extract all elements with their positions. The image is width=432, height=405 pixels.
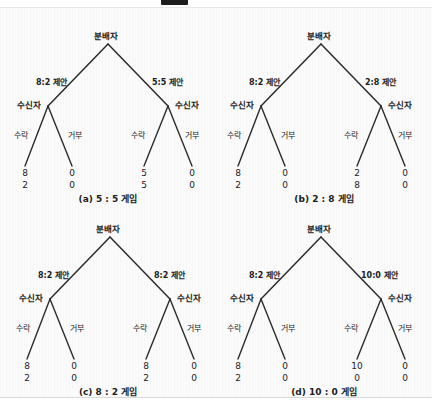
action-label-c-0: 수락 <box>16 325 30 333</box>
caption-c: (c) 8 : 2 게임 <box>0 385 216 398</box>
left-node-label-c: 수신자 <box>19 294 43 303</box>
right-node-label-d: 수신자 <box>388 294 412 303</box>
caption-d: (d) 10 : 0 게임 <box>216 385 432 398</box>
edge-right-accept-b <box>357 106 381 166</box>
payoff-bottom-b-1: 0 <box>274 179 296 191</box>
payoff-c-0: 8 2 <box>16 360 38 384</box>
left-offer-label-a: 8:2 제안 <box>36 79 67 87</box>
edge-root-left-b <box>261 44 321 106</box>
payoff-bottom-d-0: 2 <box>227 372 249 384</box>
edge-root-right-a <box>108 44 168 106</box>
payoff-top-c-1: 0 <box>63 360 85 372</box>
payoff-bottom-b-3: 0 <box>394 179 416 191</box>
left-node-label-b: 수신자 <box>230 101 254 110</box>
payoff-top-b-1: 0 <box>274 167 296 179</box>
payoff-b-0: 8 2 <box>227 167 249 191</box>
action-label-d-2: 수락 <box>344 325 358 333</box>
game-tree-panel-c: 분배자 8:2 제안 8:2 제안 수신자 수신자 수락 거부 수락 거부 8 … <box>0 201 216 396</box>
game-tree-panel-d: 분배자 8:2 제안 10:0 제안 수신자 수신자 수락 거부 수락 거부 8… <box>216 201 432 396</box>
payoff-top-b-3: 0 <box>394 167 416 179</box>
payoff-bottom-a-0: 2 <box>14 179 36 191</box>
payoff-d-3: 0 0 <box>394 360 416 384</box>
payoff-bottom-d-3: 0 <box>394 372 416 384</box>
payoff-bottom-c-0: 2 <box>16 372 38 384</box>
payoff-bottom-a-3: 0 <box>181 179 203 191</box>
action-label-d-3: 거부 <box>398 325 412 333</box>
root-node-label-b: 분배자 <box>307 32 331 41</box>
action-label-a-2: 수락 <box>131 132 145 140</box>
action-label-b-3: 거부 <box>398 132 412 140</box>
payoff-b-1: 0 0 <box>274 167 296 191</box>
payoff-bottom-d-2: 0 <box>344 372 370 384</box>
payoff-top-d-1: 0 <box>274 360 296 372</box>
right-offer-label-b: 2:8 제안 <box>365 79 396 87</box>
action-label-c-1: 거부 <box>70 325 84 333</box>
payoff-d-0: 8 2 <box>227 360 249 384</box>
payoff-top-c-3: 0 <box>183 360 205 372</box>
left-node-label-d: 수신자 <box>230 294 254 303</box>
payoff-a-0: 8 2 <box>14 167 36 191</box>
action-label-a-1: 거부 <box>68 132 82 140</box>
action-label-a-0: 수락 <box>14 132 28 140</box>
edge-root-right-c <box>110 237 170 299</box>
root-node-label-d: 분배자 <box>307 225 331 234</box>
action-label-d-0: 수락 <box>227 325 241 333</box>
edge-left-accept-a <box>25 106 48 166</box>
payoff-b-2: 2 8 <box>346 167 368 191</box>
root-node-label-a: 분배자 <box>94 32 118 41</box>
payoff-bottom-c-2: 2 <box>135 372 157 384</box>
payoff-bottom-a-1: 0 <box>61 179 83 191</box>
root-node-label-c: 분배자 <box>96 225 120 234</box>
payoff-bottom-b-0: 2 <box>227 179 249 191</box>
payoff-bottom-c-1: 0 <box>63 372 85 384</box>
payoff-a-3: 0 0 <box>181 167 203 191</box>
right-node-label-c: 수신자 <box>177 294 201 303</box>
header-badge <box>161 0 188 5</box>
payoff-c-2: 8 2 <box>135 360 157 384</box>
action-label-d-1: 거부 <box>281 325 295 333</box>
right-node-label-a: 수신자 <box>175 101 199 110</box>
edge-right-accept-a <box>144 106 168 166</box>
payoff-d-2: 10 0 <box>344 360 370 384</box>
edge-right-accept-c <box>146 299 170 359</box>
game-tree-panel-b: 분배자 8:2 제안 2:8 제안 수신자 수신자 수락 거부 수락 거부 8 … <box>216 8 432 203</box>
payoff-b-3: 0 0 <box>394 167 416 191</box>
payoff-top-a-0: 8 <box>14 167 36 179</box>
payoff-top-b-2: 2 <box>346 167 368 179</box>
edge-right-accept-d <box>357 299 381 359</box>
edge-root-right-b <box>321 44 381 106</box>
left-node-label-a: 수신자 <box>17 101 41 110</box>
right-offer-label-a: 5:5 제안 <box>152 79 183 87</box>
edge-left-accept-b <box>238 106 261 166</box>
truncated-header-strip <box>0 0 432 7</box>
payoff-top-a-1: 0 <box>61 167 83 179</box>
figure-bottom-margin <box>0 398 432 405</box>
payoff-top-c-0: 8 <box>16 360 38 372</box>
edge-root-left-c <box>50 237 110 299</box>
payoff-top-d-3: 0 <box>394 360 416 372</box>
right-offer-label-c: 8:2 제안 <box>154 272 185 280</box>
action-label-b-1: 거부 <box>281 132 295 140</box>
payoff-bottom-d-1: 0 <box>274 372 296 384</box>
payoff-top-d-2: 10 <box>344 360 370 372</box>
edge-left-accept-c <box>27 299 50 359</box>
edge-root-right-d <box>321 237 381 299</box>
left-offer-label-d: 8:2 제안 <box>249 272 280 280</box>
right-node-label-b: 수신자 <box>388 101 412 110</box>
payoff-top-a-2: 5 <box>133 167 155 179</box>
action-label-b-0: 수락 <box>227 132 241 140</box>
payoff-a-2: 5 5 <box>133 167 155 191</box>
payoff-bottom-b-2: 8 <box>346 179 368 191</box>
payoff-a-1: 0 0 <box>61 167 83 191</box>
payoff-c-1: 0 0 <box>63 360 85 384</box>
edge-root-left-a <box>48 44 108 106</box>
payoff-top-a-3: 0 <box>181 167 203 179</box>
action-label-c-3: 거부 <box>187 325 201 333</box>
action-label-a-3: 거부 <box>185 132 199 140</box>
right-offer-label-d: 10:0 제안 <box>361 272 398 280</box>
payoff-top-b-0: 8 <box>227 167 249 179</box>
payoff-d-1: 0 0 <box>274 360 296 384</box>
action-label-c-2: 수락 <box>133 325 147 333</box>
action-label-b-2: 수락 <box>344 132 358 140</box>
payoff-bottom-a-2: 5 <box>133 179 155 191</box>
